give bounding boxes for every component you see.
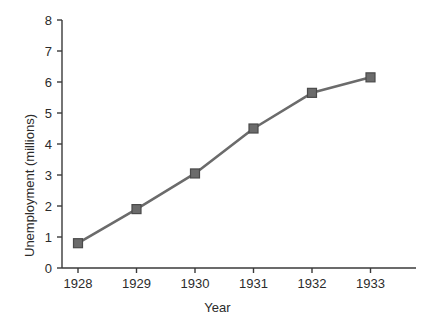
- x-axis-tick-label: 1933: [356, 276, 385, 291]
- y-axis-tick-label: 8: [45, 13, 52, 28]
- chart-plot-area: 012345678 192819291930193119321933: [0, 0, 435, 326]
- x-axis-ticks: 192819291930193119321933: [64, 268, 385, 291]
- x-axis-tick-label: 1932: [298, 276, 327, 291]
- x-axis-tick-label: 1930: [181, 276, 210, 291]
- data-point-marker: [132, 205, 141, 214]
- data-point-marker: [249, 124, 258, 133]
- y-axis-tick-label: 3: [45, 168, 52, 183]
- data-point-marker: [74, 239, 83, 248]
- data-point-marker: [366, 73, 375, 82]
- y-axis-tick-label: 1: [45, 230, 52, 245]
- y-axis-tick-label: 6: [45, 75, 52, 90]
- data-point-marker: [191, 169, 200, 178]
- y-axis-tick-label: 0: [45, 261, 52, 276]
- x-axis-title: Year: [0, 300, 435, 315]
- y-axis-tick-label: 2: [45, 199, 52, 214]
- y-axis-tick-label: 5: [45, 106, 52, 121]
- x-axis-tick-label: 1931: [239, 276, 268, 291]
- y-axis-title: Unemployment (millions): [22, 114, 37, 257]
- y-axis-tick-label: 4: [45, 137, 52, 152]
- y-axis-tick-label: 7: [45, 44, 52, 59]
- data-point-markers: [74, 73, 376, 248]
- y-axis-ticks: 012345678: [45, 13, 62, 276]
- x-axis-tick-label: 1929: [122, 276, 151, 291]
- data-series-line: [78, 77, 371, 243]
- line-chart: 012345678 192819291930193119321933 Unemp…: [0, 0, 435, 326]
- data-point-marker: [308, 88, 317, 97]
- x-axis-tick-label: 1928: [64, 276, 93, 291]
